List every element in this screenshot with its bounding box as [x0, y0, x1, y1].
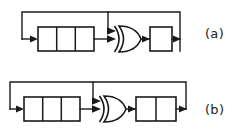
panel-label-a: (a) — [205, 26, 224, 41]
arrow-into-right-register-b — [128, 105, 136, 112]
shift-register-left-b — [24, 97, 80, 121]
arrow-gate-input-low-b — [92, 105, 101, 113]
arrow-into-left-register-b — [16, 105, 24, 112]
arrow-gate-input-high-b — [92, 97, 101, 105]
lfsr-diagram: (a) — [0, 0, 243, 132]
arrow-gate-input-low-a — [107, 35, 116, 43]
shift-register-left-a — [38, 27, 94, 51]
arrow-gate-input-high-a — [107, 27, 116, 35]
panel-label-b: (b) — [205, 102, 224, 117]
figure-container: (a) — [0, 0, 243, 132]
panel-b: (b) — [10, 82, 224, 122]
panel-a: (a) — [22, 12, 224, 52]
shift-register-right-a — [150, 27, 172, 51]
xor-gate-body-b — [104, 96, 126, 122]
arrow-into-right-register-a — [142, 35, 150, 42]
xor-gate-body-a — [119, 26, 141, 52]
